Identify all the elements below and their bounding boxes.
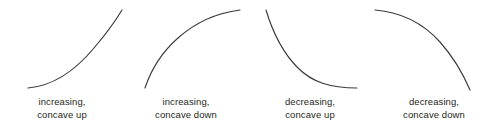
curve-path xyxy=(28,10,122,88)
caption-line-1: decreasing, xyxy=(372,96,496,109)
curve-increasing-concave-up xyxy=(0,0,124,96)
caption-increasing-concave-up: increasing, concave up xyxy=(0,96,124,121)
curve-path xyxy=(266,10,357,88)
curve-increasing-concave-down xyxy=(124,0,248,96)
curve-decreasing-concave-up xyxy=(248,0,372,96)
caption-line-1: increasing, xyxy=(124,96,248,109)
caption-decreasing-concave-down: decreasing, concave down xyxy=(372,96,496,121)
concavity-figure: increasing, concave up increasing, conca… xyxy=(0,0,496,134)
caption-line-2: concave up xyxy=(248,109,372,122)
caption-line-2: concave down xyxy=(124,109,248,122)
panel-decreasing-concave-up: decreasing, concave up xyxy=(248,0,372,134)
caption-increasing-concave-down: increasing, concave down xyxy=(124,96,248,121)
caption-line-1: decreasing, xyxy=(248,96,372,109)
caption-line-2: concave down xyxy=(372,109,496,122)
curve-path xyxy=(145,10,240,88)
panel-increasing-concave-down: increasing, concave down xyxy=(124,0,248,134)
panel-increasing-concave-up: increasing, concave up xyxy=(0,0,124,134)
caption-decreasing-concave-up: decreasing, concave up xyxy=(248,96,372,121)
curve-decreasing-concave-down xyxy=(372,0,496,96)
caption-line-2: concave up xyxy=(0,109,124,122)
curve-path xyxy=(375,10,470,90)
caption-line-1: increasing, xyxy=(0,96,124,109)
panel-decreasing-concave-down: decreasing, concave down xyxy=(372,0,496,134)
